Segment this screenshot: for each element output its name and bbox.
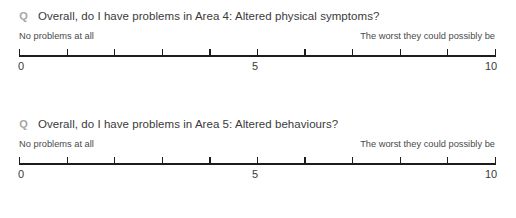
question-marker-icon: Q <box>18 10 29 23</box>
scale-number-max: 10 <box>485 59 497 74</box>
scale-tick <box>114 157 115 165</box>
scale-tick <box>400 157 401 165</box>
rating-scale[interactable]: No problems at all The worst they could … <box>0 30 516 88</box>
question-row: Q Overall, do I have problems in Area 5:… <box>0 114 516 136</box>
scale-anchor-row: No problems at all The worst they could … <box>0 138 516 152</box>
scale-tick <box>114 49 115 57</box>
scale-tick <box>209 157 210 165</box>
scale-number-mid: 5 <box>252 59 258 74</box>
scale-tick <box>257 49 258 57</box>
scale-anchor-low: No problems at all <box>19 30 94 43</box>
scale-anchor-low: No problems at all <box>19 138 94 151</box>
scale-number-max: 10 <box>485 167 497 182</box>
scale-anchor-high: The worst they could possibly be <box>360 30 495 43</box>
scale-tick <box>257 157 258 165</box>
question-text: Overall, do I have problems in Area 5: A… <box>38 116 338 132</box>
scale-tick <box>304 157 305 165</box>
scale-tick <box>495 157 496 165</box>
scale-tick <box>352 49 353 57</box>
scale-tick <box>162 157 163 165</box>
scale-tick <box>209 49 210 57</box>
question-block: Q Overall, do I have problems in Area 4:… <box>0 6 516 88</box>
scale-number-mid: 5 <box>252 167 258 182</box>
scale-anchor-row: No problems at all The worst they could … <box>0 30 516 44</box>
scale-tick <box>19 49 20 57</box>
scale-tick <box>447 157 448 165</box>
question-text: Overall, do I have problems in Area 4: A… <box>38 8 379 24</box>
rating-scale[interactable]: No problems at all The worst they could … <box>0 138 516 196</box>
scale-anchor-high: The worst they could possibly be <box>360 138 495 151</box>
scale-tick <box>162 49 163 57</box>
scale-tick <box>447 49 448 57</box>
scale-tick <box>19 157 20 165</box>
scale-tick <box>67 157 68 165</box>
question-marker-icon: Q <box>18 118 29 131</box>
scale-ruler[interactable] <box>19 47 496 57</box>
scale-numbers: 0 5 10 <box>0 59 516 77</box>
scale-tick <box>400 49 401 57</box>
scale-ruler[interactable] <box>19 155 496 165</box>
question-row: Q Overall, do I have problems in Area 4:… <box>0 6 516 28</box>
scale-number-min: 0 <box>18 167 24 182</box>
scale-tick <box>67 49 68 57</box>
questionnaire-sheet: Q Overall, do I have problems in Area 4:… <box>0 0 516 218</box>
question-block: Q Overall, do I have problems in Area 5:… <box>0 114 516 196</box>
scale-numbers: 0 5 10 <box>0 167 516 185</box>
scale-tick <box>352 157 353 165</box>
scale-tick <box>495 49 496 57</box>
scale-tick <box>304 49 305 57</box>
scale-number-min: 0 <box>18 59 24 74</box>
